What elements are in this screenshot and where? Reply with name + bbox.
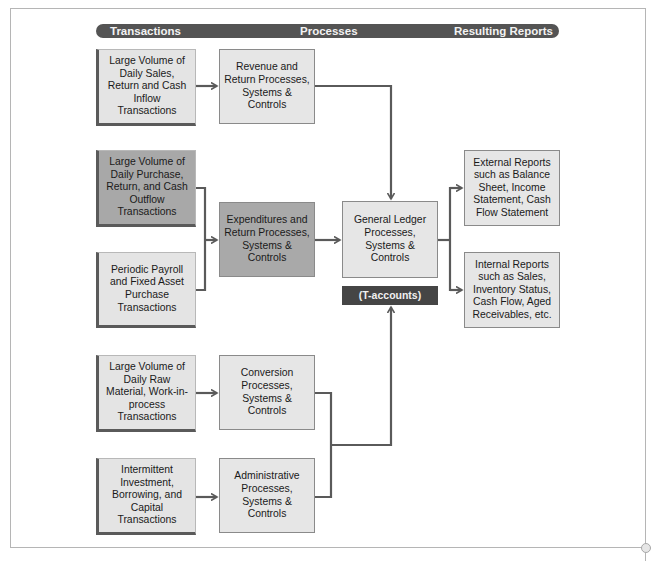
transaction-label: Large Volume of Daily Sales, Return and … [103,55,191,118]
process-label: Revenue and Return Processes, Systems & … [224,61,310,111]
process-label: Conversion Processes, Systems & Controls [224,367,310,417]
report-label: Internal Reports such as Sales, Inventor… [469,259,555,322]
general-ledger-label: General Ledger Processes, Systems & Cont… [347,214,433,264]
process-label: Expenditures and Return Processes, Syste… [224,214,310,264]
transaction-label: Large Volume of Daily Raw Material, Work… [103,361,191,424]
process-box-expenditures: Expenditures and Return Processes, Syste… [219,202,315,277]
transaction-label: Periodic Payroll and Fixed Asset Purchas… [103,264,191,314]
transaction-box-investment: Intermittent Investment, Borrowing, and … [96,458,196,535]
report-box-external: External Reports such as Balance Sheet, … [464,150,560,226]
report-label: External Reports such as Balance Sheet, … [469,157,555,220]
t-accounts-label: (T-accounts) [342,286,438,305]
process-box-administrative: Administrative Processes, Systems & Cont… [219,458,315,533]
transaction-box-sales: Large Volume of Daily Sales, Return and … [96,49,196,126]
transaction-box-purchase: Large Volume of Daily Purchase, Return, … [96,150,196,227]
process-box-conversion: Conversion Processes, Systems & Controls [219,355,315,430]
process-box-revenue: Revenue and Return Processes, Systems & … [219,49,315,124]
transaction-label: Intermittent Investment, Borrowing, and … [103,464,191,527]
transaction-label: Large Volume of Daily Purchase, Return, … [103,156,191,219]
process-label: Administrative Processes, Systems & Cont… [224,470,310,520]
general-ledger-box: General Ledger Processes, Systems & Cont… [342,201,438,278]
report-box-internal: Internal Reports such as Sales, Inventor… [464,252,560,328]
transaction-box-payroll: Periodic Payroll and Fixed Asset Purchas… [96,252,196,328]
transaction-box-raw-material: Large Volume of Daily Raw Material, Work… [96,355,196,432]
